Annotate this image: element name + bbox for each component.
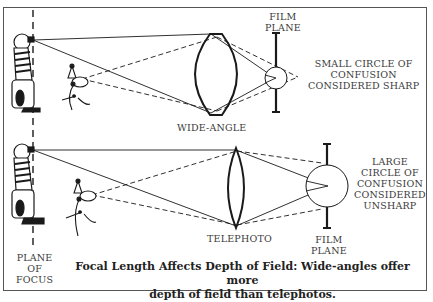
film-plane-label-bottom: FILM PLANE — [311, 234, 347, 256]
label-line: LARGE — [354, 156, 426, 167]
label-line: OF — [16, 263, 53, 274]
label-line: CONFUSION — [354, 178, 426, 189]
figure-caption: Focal Length Affects Depth of Field: Wid… — [70, 260, 415, 302]
dog-figure-bottom — [66, 179, 96, 236]
label-line: UNSHARP — [354, 200, 426, 211]
label-line: FILM — [311, 234, 347, 245]
caption-line-1: Focal Length Affects Depth of Field: Wid… — [70, 260, 415, 288]
small-circle-note: SMALL CIRCLE OF CONFUSION CONSIDERED SHA… — [308, 58, 419, 91]
caption-line-2: depth of field than telephotos. — [70, 288, 415, 302]
film-plane-label-top: FILM PLANE — [265, 11, 301, 33]
label-line: CIRCLE OF — [354, 167, 426, 178]
telephoto-lens — [228, 148, 244, 228]
label-line: PLANE — [311, 245, 347, 256]
label-line: PLANE — [16, 252, 53, 263]
label-line: FOCUS — [16, 274, 53, 285]
label-line: SMALL CIRCLE OF — [308, 58, 419, 69]
label-line: CONSIDERED — [354, 189, 426, 200]
label-line: FILM — [265, 11, 301, 22]
label-line: CONSIDERED SHARP — [308, 80, 419, 91]
clown-figure-top — [12, 34, 40, 112]
wide-angle-lens — [195, 34, 237, 115]
label-line: PLANE — [265, 22, 301, 33]
plane-of-focus-label: PLANE OF FOCUS — [16, 252, 53, 285]
clown-figure-bottom — [12, 144, 44, 224]
telephoto-label: TELEPHOTO — [207, 233, 272, 244]
large-circle-note: LARGE CIRCLE OF CONFUSION CONSIDERED UNS… — [354, 156, 426, 211]
wide-angle-label: WIDE-ANGLE — [177, 122, 246, 133]
dog-figure-top — [62, 64, 90, 110]
label-line: CONFUSION — [308, 69, 419, 80]
